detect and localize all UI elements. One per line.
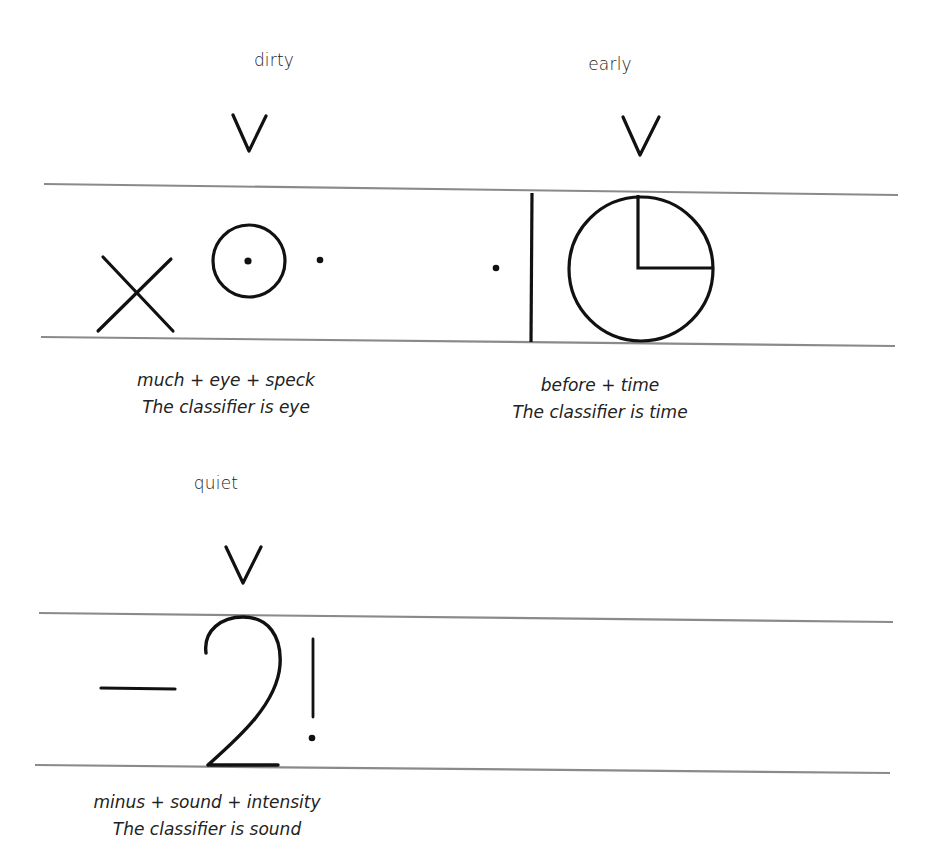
minus-icon	[101, 688, 175, 689]
caption-early: before + time The classifier is time	[512, 372, 687, 426]
sound-ear-icon	[206, 617, 281, 765]
formula-quiet: minus + sound + intensity	[93, 789, 320, 816]
classifier-note-dirty: The classifier is eye	[137, 394, 315, 421]
classifier-note-early: The classifier is time	[512, 399, 687, 426]
caption-dirty: much + eye + speck The classifier is eye	[137, 367, 315, 421]
speck-dot-icon	[317, 257, 324, 264]
formula-dirty: much + eye + speck	[137, 367, 315, 394]
word-label-early: early	[588, 54, 632, 74]
eye-pupil-dot-icon	[244, 257, 251, 264]
x-mark-icon	[98, 259, 171, 331]
clock-time-icon	[569, 195, 713, 341]
v-marker-icon	[623, 117, 659, 155]
diagram-canvas	[0, 0, 930, 859]
top-guide-line	[39, 613, 893, 622]
caption-quiet: minus + sound + intensity The classifier…	[93, 789, 320, 843]
vertical-bar-icon	[531, 193, 532, 342]
bottom-guide-line	[35, 765, 890, 773]
guide-lines-band-1	[41, 184, 898, 346]
guide-lines-band-2	[35, 613, 893, 773]
intensity-exclamation-dot-icon	[309, 735, 316, 742]
word-label-dirty: dirty	[254, 50, 294, 70]
v-marker-icon	[226, 547, 261, 583]
v-marker-icon	[233, 115, 266, 151]
top-guide-line	[44, 184, 898, 195]
bottom-guide-line	[41, 337, 895, 346]
before-dot-icon	[493, 265, 500, 272]
word-label-quiet: quiet	[194, 473, 238, 493]
classifier-note-quiet: The classifier is sound	[93, 816, 320, 843]
formula-early: before + time	[512, 372, 687, 399]
dirty-symbols	[98, 225, 285, 331]
